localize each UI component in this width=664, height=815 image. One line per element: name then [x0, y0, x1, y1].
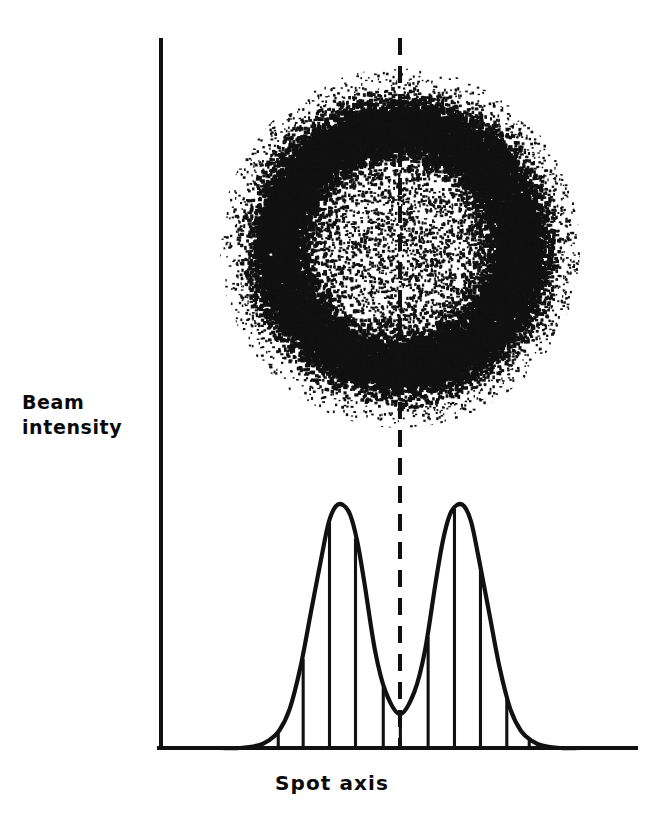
y-axis-label: Beam intensity	[22, 390, 122, 440]
beam-profile-figure: Beam intensity Spot axis	[0, 0, 664, 815]
x-axis-label: Spot axis	[0, 770, 664, 796]
beam-spot-image	[217, 60, 589, 441]
